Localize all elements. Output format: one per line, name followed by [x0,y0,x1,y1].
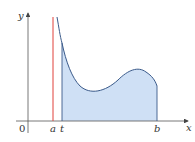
diagram-canvas: y x 0 a t b [0,0,195,142]
a-label: a [50,123,56,134]
origin-label: 0 [19,123,25,134]
b-label: b [154,123,160,134]
y-axis-label: y [17,10,24,21]
x-axis-label: x [186,122,192,133]
t-label: t [60,123,65,134]
